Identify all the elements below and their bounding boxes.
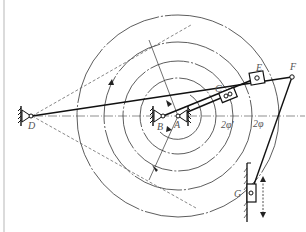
mechanism-diagram: D B A C E F G 2φ' 2φ	[0, 0, 306, 232]
linkage-drawing	[0, 0, 306, 232]
pin-G	[249, 191, 253, 195]
label-angle-inner: 2φ'	[221, 120, 234, 130]
pin-F	[290, 75, 294, 79]
stroke-arrow-icon	[260, 176, 266, 218]
arrow-inner-icon	[166, 100, 172, 107]
pin-C	[224, 94, 228, 98]
radius-upper	[149, 40, 178, 116]
label-B: B	[157, 122, 163, 132]
label-E: E	[256, 63, 262, 73]
link-FG	[251, 77, 292, 193]
label-A: A	[174, 120, 180, 130]
pin-E	[255, 76, 259, 80]
label-F: F	[290, 62, 296, 72]
label-C: C	[215, 84, 222, 94]
pin-C2	[228, 92, 232, 96]
label-D: D	[28, 121, 35, 131]
link-BE	[163, 78, 257, 116]
label-G: G	[234, 189, 241, 199]
label-angle-outer: 2φ	[253, 119, 264, 129]
